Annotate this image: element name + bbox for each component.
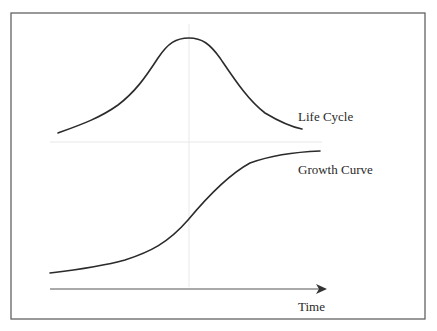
- growth-curve-label: Growth Curve: [298, 163, 373, 176]
- life-cycle-label: Life Cycle: [298, 110, 353, 123]
- time-axis-label: Time: [298, 300, 325, 313]
